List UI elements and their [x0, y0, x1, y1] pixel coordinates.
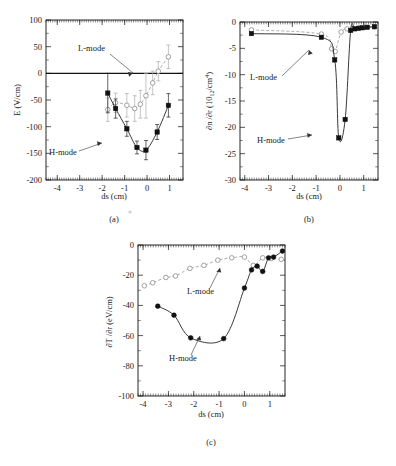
data-point: [221, 336, 226, 341]
panel-b-annotations: L-mode H-mode: [250, 50, 313, 145]
leader-line-l-mode: [110, 54, 133, 73]
data-point: [280, 249, 285, 254]
y-tick-label: -80: [123, 361, 134, 371]
data-point: [319, 35, 323, 39]
data-point: [166, 103, 170, 107]
y-tick-label: 0: [38, 68, 42, 78]
panel-a-annotations: L-mode H-mode: [49, 43, 133, 157]
x-axis-title: ds (cm): [296, 191, 322, 201]
leader-arrow-l-mode: [308, 50, 313, 55]
data-point: [266, 255, 271, 260]
leader-arrow-h-mode: [196, 336, 201, 340]
figure-root: 100500-50-100-150-200 -4-3-2-101 L-mode …: [0, 0, 396, 466]
axis-ticks: [138, 245, 285, 396]
data-point: [188, 266, 193, 271]
y-tick-label: -150: [26, 148, 42, 158]
y-tick-label: -100: [118, 391, 134, 401]
y-tick-label: -20: [123, 270, 134, 280]
y-tick-labels: 100500-50-100-150-200: [26, 15, 42, 185]
x-tick-label: 1: [167, 183, 171, 193]
x-tick-label: 1: [362, 183, 366, 193]
data-point: [138, 102, 143, 107]
h-mode-points: [249, 25, 376, 141]
leader-line-l-mode: [282, 50, 309, 76]
y-axis-title-group: ∂n /∂r (1012/cm4): [204, 72, 215, 130]
data-point: [155, 130, 159, 134]
panel-a-axes: 100500-50-100-150-200 -4-3-2-101: [26, 15, 183, 193]
panel-b: 0-5-10-15-20-25-30 -4-3-2-101 L-mode H-m…: [198, 0, 396, 232]
annotation-l-mode: L-mode: [78, 43, 105, 53]
annotation-h-mode: H-mode: [169, 353, 197, 363]
annotation-l-mode: L-mode: [250, 72, 277, 82]
annotation-h-mode: H-mode: [257, 135, 285, 145]
data-point: [144, 148, 148, 152]
x-tick-label: -3: [165, 399, 172, 409]
panel-b-plot: 0-5-10-15-20-25-30 -4-3-2-101 L-mode H-m…: [198, 0, 396, 232]
data-point: [132, 106, 137, 111]
data-point: [172, 313, 177, 318]
y-tick-label: -40: [123, 300, 134, 310]
x-tick-label: -3: [76, 183, 83, 193]
y-tick-label: -25: [225, 149, 236, 159]
data-point: [142, 283, 147, 288]
y-tick-label: -20: [225, 122, 236, 132]
data-point: [242, 286, 247, 291]
data-point: [333, 58, 337, 62]
y-axis-title-main: ∂n /∂r (10: [204, 97, 214, 130]
panel-a-plot: 100500-50-100-150-200 -4-3-2-101 L-mode …: [0, 0, 198, 232]
data-point: [260, 269, 265, 274]
data-point: [135, 145, 139, 149]
data-point: [216, 258, 221, 263]
y-tick-label: -15: [225, 96, 236, 106]
y-tick-label: -60: [123, 331, 134, 341]
x-tick-label: -3: [265, 183, 272, 193]
y-tick-label: -5: [229, 43, 236, 53]
leader-arrow-l-mode: [216, 268, 221, 272]
data-point: [188, 335, 193, 340]
data-point: [155, 304, 160, 309]
leader-arrow-h-mode: [97, 141, 102, 146]
panel-caption-a: (a): [109, 214, 119, 224]
y-axis-title-group: ∂T /∂r (eV/cm): [104, 296, 114, 347]
h-mode-curve: [158, 251, 283, 343]
data-point: [144, 93, 149, 98]
panel-b-data-series: [249, 23, 377, 141]
data-point: [125, 103, 130, 108]
y-tick-label: 0: [232, 17, 236, 27]
data-point: [166, 55, 171, 60]
data-point: [242, 255, 247, 260]
x-axis-title: ds (cm): [101, 191, 127, 201]
x-tick-label: -2: [190, 399, 197, 409]
x-tick-labels: -4-3-2-101: [140, 399, 272, 409]
data-point: [173, 274, 178, 279]
l-mode-points: [105, 55, 170, 112]
x-tick-label: -4: [140, 399, 148, 409]
page-speck: [128, 210, 131, 213]
y-tick-label: -50: [31, 95, 42, 105]
data-point: [260, 256, 265, 261]
data-point: [249, 31, 253, 35]
y-tick-labels: 0-5-10-15-20-25-30: [225, 17, 236, 185]
y-axis-title-close: ): [204, 72, 214, 75]
data-point: [365, 25, 369, 29]
y-axis-title: ∂T /∂r (eV/cm): [104, 296, 114, 347]
panel-b-axes: 0-5-10-15-20-25-30 -4-3-2-101: [225, 17, 378, 193]
x-tick-label: -4: [54, 183, 62, 193]
data-point: [106, 91, 110, 95]
y-tick-label: -100: [26, 122, 42, 132]
y-tick-labels: 0-20-40-60-80-100: [118, 240, 134, 401]
panel-c: 0-20-40-60-80-100 -4-3-2-101 L-mode H-mo…: [92, 232, 322, 466]
plot-frame: [240, 22, 378, 180]
data-point: [360, 26, 364, 30]
data-point: [150, 81, 155, 86]
y-axis-title-mid: /cm: [204, 77, 214, 90]
data-point: [156, 69, 161, 74]
data-point: [356, 26, 360, 30]
axis-ticks: [240, 22, 378, 180]
x-tick-label: 0: [145, 183, 149, 193]
data-point: [164, 275, 169, 280]
panel-a: 100500-50-100-150-200 -4-3-2-101 L-mode …: [0, 0, 198, 232]
y-axis-title-subscript: r: [17, 99, 19, 105]
data-point: [372, 25, 376, 29]
y-tick-label: 50: [34, 42, 43, 52]
